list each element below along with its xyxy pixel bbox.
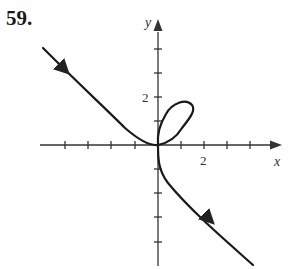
x-axis-label: x: [273, 154, 281, 169]
y-axis-arrow-icon: [154, 19, 163, 31]
x-tick-label-2: 2: [200, 153, 207, 168]
y-axis-label: y: [143, 15, 152, 30]
direction-arrow-icon: [205, 215, 212, 222]
curve: [43, 48, 253, 265]
y-tick-label-2: 2: [142, 90, 149, 105]
x-axis-arrow-icon: [270, 141, 282, 150]
direction-arrow-icon: [58, 63, 67, 72]
parametric-curve-plot: y x 2 2: [0, 0, 301, 269]
